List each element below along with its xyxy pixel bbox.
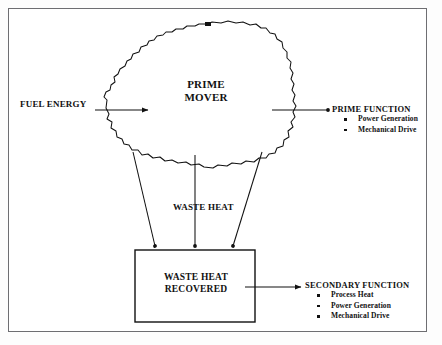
diagram-page: FUEL ENERGY PRIME MOVER WASTE HEAT WASTE… xyxy=(0,0,442,345)
prime-mover-label: PRIME MOVER xyxy=(173,78,239,104)
waste-heat-recovered-label: WASTE HEAT RECOVERED xyxy=(141,272,251,295)
waste-heat-recovered-line2: RECOVERED xyxy=(165,284,228,294)
bullet-icon xyxy=(344,129,347,132)
bullet-icon xyxy=(317,315,320,318)
prime-function-item-1: Power Generation xyxy=(332,114,418,125)
waste-heat-label: WASTE HEAT xyxy=(173,202,234,212)
secondary-function-item-1: Process Heat xyxy=(305,290,409,301)
prime-function-title: PRIME FUNCTION xyxy=(332,104,418,114)
prime-mover-label-line1: PRIME xyxy=(187,78,225,90)
waste-heat-recovered-line1: WASTE HEAT xyxy=(164,272,228,282)
bullet-icon xyxy=(317,305,320,308)
fuel-energy-label: FUEL ENERGY xyxy=(20,99,86,109)
secondary-function-block: SECONDARY FUNCTION Process Heat Power Ge… xyxy=(305,280,409,322)
prime-function-item-2: Mechanical Drive xyxy=(332,125,418,136)
secondary-function-item-1-label: Process Heat xyxy=(331,290,374,299)
prime-mover-label-line2: MOVER xyxy=(184,91,227,103)
secondary-function-item-2-label: Power Generation xyxy=(331,301,391,310)
secondary-function-item-3-label: Mechanical Drive xyxy=(331,311,389,320)
prime-function-item-2-label: Mechanical Drive xyxy=(358,125,416,134)
bullet-icon xyxy=(317,294,320,297)
waste-heat-line-right xyxy=(233,152,262,246)
waste-heat-line-left xyxy=(133,152,155,246)
secondary-function-item-3: Mechanical Drive xyxy=(305,311,409,322)
secondary-function-item-2: Power Generation xyxy=(305,301,409,312)
bullet-icon xyxy=(344,118,347,121)
prime-function-block: PRIME FUNCTION Power Generation Mechanic… xyxy=(332,104,418,135)
ink-blot-artifact xyxy=(205,22,211,26)
secondary-function-title: SECONDARY FUNCTION xyxy=(305,280,409,290)
prime-function-item-1-label: Power Generation xyxy=(358,114,418,123)
